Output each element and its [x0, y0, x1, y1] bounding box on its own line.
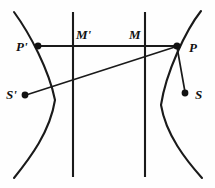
label-s-prime: S' [6, 88, 17, 101]
point-dot-p-prime [35, 43, 42, 50]
focal-ray-s-prime-to-p-segment [26, 46, 178, 95]
point-dot-p [173, 42, 180, 49]
point-dot-s-prime [22, 92, 29, 99]
point-dot-s [182, 90, 189, 97]
label-m: M [129, 28, 141, 41]
figure-canvas [0, 0, 215, 188]
label-p-prime: P' [16, 40, 28, 53]
label-p: P [189, 41, 197, 54]
geometry-figure: P' M' M P S' S [0, 0, 215, 188]
focal-ray-p-to-s-segment [177, 47, 185, 92]
left-hyperbola-branch-icon [14, 12, 55, 178]
label-s: S [195, 88, 202, 101]
label-m-prime: M' [76, 28, 91, 41]
